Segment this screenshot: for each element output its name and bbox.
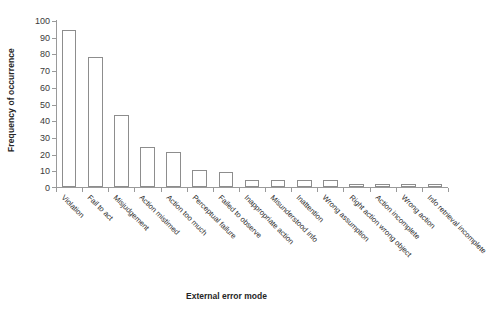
y-tick-mark	[52, 155, 56, 156]
bar	[219, 172, 234, 187]
bar	[375, 184, 390, 187]
x-category-label: Misunderstood info	[269, 193, 320, 244]
x-tick-mark	[213, 188, 214, 192]
x-category-label: Fail to act	[86, 193, 115, 222]
y-tick-label: 0	[45, 183, 50, 193]
x-tick-mark	[370, 188, 371, 192]
x-tick-mark	[291, 188, 292, 192]
bar	[323, 180, 338, 187]
y-tick-label: 90	[40, 33, 50, 43]
bar	[140, 147, 155, 187]
bar	[297, 180, 312, 187]
x-axis-category-labels: ViolationFail to actMisjudgementAction m…	[56, 193, 453, 285]
x-tick-mark	[317, 188, 318, 192]
x-tick-mark	[82, 188, 83, 192]
y-tick-label: 10	[40, 166, 50, 176]
x-tick-mark	[161, 188, 162, 192]
y-tick-label: 30	[40, 133, 50, 143]
y-tick-label: 20	[40, 150, 50, 160]
y-tick-mark	[52, 71, 56, 72]
x-tick-mark	[134, 188, 135, 192]
x-tick-mark	[56, 188, 57, 192]
bar	[166, 152, 181, 187]
x-tick-mark	[448, 188, 449, 192]
x-tick-mark	[343, 188, 344, 192]
bars-layer	[56, 20, 448, 187]
y-tick-label: 100	[35, 16, 50, 26]
y-axis-title-text: Frequency of occurrence	[6, 48, 16, 152]
bar	[114, 115, 129, 187]
y-tick-label: 80	[40, 49, 50, 59]
y-tick-label: 70	[40, 66, 50, 76]
bar	[349, 184, 364, 187]
x-tick-mark	[239, 188, 240, 192]
bar	[245, 180, 260, 187]
y-axis-tick-labels: 0102030405060708090100	[22, 20, 54, 188]
y-tick-label: 50	[40, 100, 50, 110]
y-tick-mark	[52, 88, 56, 89]
y-tick-mark	[52, 38, 56, 39]
y-tick-label: 40	[40, 116, 50, 126]
x-category-label: Wrong assumption	[321, 193, 371, 243]
y-tick-mark	[52, 21, 56, 22]
x-tick-mark	[108, 188, 109, 192]
x-tick-mark	[265, 188, 266, 192]
bar	[192, 170, 207, 187]
y-axis-title: Frequency of occurrence	[0, 0, 22, 200]
bar	[62, 30, 77, 187]
x-category-label: Inappropriate action	[243, 193, 296, 246]
y-tick-label: 60	[40, 83, 50, 93]
x-tick-mark	[422, 188, 423, 192]
x-axis-title: External error mode	[0, 291, 453, 301]
plot-area	[56, 20, 448, 188]
bar	[88, 57, 103, 187]
x-tick-mark	[396, 188, 397, 192]
x-category-label: Action incomplete	[373, 193, 421, 241]
bar	[428, 184, 443, 187]
x-tick-mark	[187, 188, 188, 192]
x-category-label: Violation	[60, 193, 87, 220]
y-tick-mark	[52, 171, 56, 172]
y-tick-mark	[52, 105, 56, 106]
bar	[271, 180, 286, 187]
bar	[401, 184, 416, 187]
y-tick-mark	[52, 54, 56, 55]
y-tick-mark	[52, 138, 56, 139]
y-tick-mark	[52, 121, 56, 122]
